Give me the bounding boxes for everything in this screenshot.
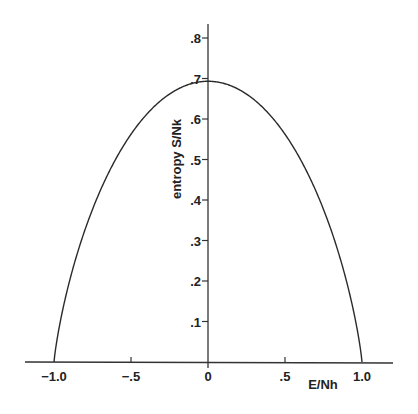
axes xyxy=(25,24,393,368)
x-tick-label: 1.0 xyxy=(353,369,371,384)
x-axis-label: E/Nh xyxy=(308,377,338,392)
x-axis xyxy=(25,362,393,363)
x-tick-label: 0 xyxy=(204,369,211,384)
x-tick-label: −1.0 xyxy=(41,369,67,384)
entropy-chart: −1.0−.50.51.0 .1.2.3.4.5.6.7.8 E/Nh entr… xyxy=(0,0,418,414)
y-tick-label: .8 xyxy=(190,31,201,46)
y-tick-label: .5 xyxy=(190,153,201,168)
y-tick-label: .1 xyxy=(190,315,201,330)
y-tick-label: .4 xyxy=(190,193,202,208)
x-tick-label: −.5 xyxy=(122,369,140,384)
y-ticks: .1.2.3.4.5.6.7.8 xyxy=(190,31,208,330)
y-tick-label: .3 xyxy=(190,234,201,249)
x-tick-label: .5 xyxy=(280,369,291,384)
y-tick-label: .6 xyxy=(190,112,201,127)
y-axis-label: entropy S/Nk xyxy=(169,118,184,199)
y-tick-label: .2 xyxy=(190,274,201,289)
